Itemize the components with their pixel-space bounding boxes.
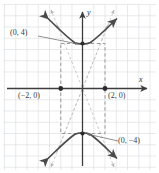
point-intercept-left xyxy=(58,86,63,91)
point-vertex-upper xyxy=(80,41,84,45)
point-intercept-right xyxy=(103,86,108,91)
point-vertex-lower xyxy=(80,131,84,135)
graph-canvas xyxy=(0,0,159,173)
x-axis-label: x xyxy=(139,76,143,84)
label-vertex-upper: (0, 4) xyxy=(10,29,27,37)
y-axis-label: y xyxy=(87,9,91,17)
label-intercept-right: (2, 0) xyxy=(108,92,125,100)
leader-vertex-lower xyxy=(87,134,118,141)
hyperbola-figure: (0, 4) (−2, 0) (2, 0) (0, −4) x y xyxy=(0,0,159,173)
label-intercept-left: (−2, 0) xyxy=(18,92,40,100)
label-vertex-lower: (0, −4) xyxy=(118,137,140,145)
